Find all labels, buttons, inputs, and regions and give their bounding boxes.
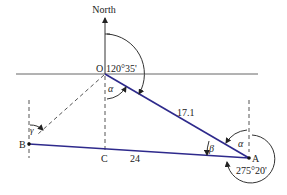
dashed-line-o-b (38, 75, 104, 134)
alpha-arc-a (226, 130, 247, 143)
bearing-diagram: North O 120°35' α 17.1 γ B C 24 β α A 27… (0, 0, 287, 195)
point-o-label: O (96, 63, 103, 74)
north-label: North (92, 4, 115, 15)
point-b-label: B (19, 139, 26, 150)
bearing-oa-label: 120°35' (106, 63, 137, 74)
point-a-dot (247, 156, 251, 160)
alpha-a-label: α (238, 138, 244, 149)
length-ab-label: 24 (130, 153, 140, 164)
point-b-dot (27, 142, 31, 146)
gamma-label: γ (30, 125, 34, 135)
bearing-ab-label: 275°20' (236, 165, 267, 176)
point-c-label: C (101, 153, 108, 164)
length-oa-label: 17.1 (177, 107, 195, 118)
point-a-label: A (252, 153, 260, 164)
beta-label: β (208, 143, 214, 154)
alpha-o-label: α (108, 83, 114, 94)
